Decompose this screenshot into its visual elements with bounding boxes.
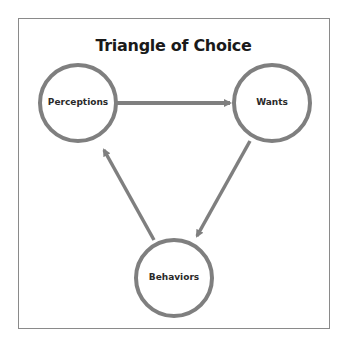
arrow-wants-to-behaviors: [197, 141, 250, 236]
node-behaviors-label: Behaviors: [134, 272, 214, 282]
arrow-behaviors-to-perceptions: [104, 150, 154, 240]
node-perceptions-label: Perceptions: [38, 97, 118, 107]
node-wants-label: Wants: [232, 97, 312, 107]
diagram-canvas: [0, 0, 347, 346]
